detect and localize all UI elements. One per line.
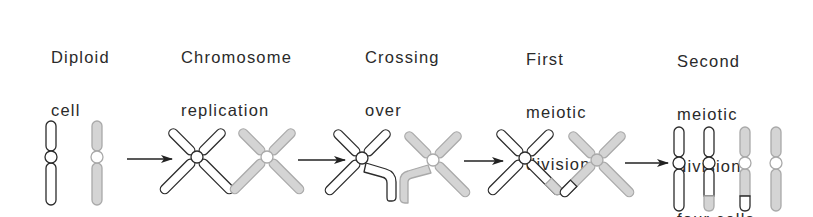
chromosome-gray-first-division bbox=[558, 130, 635, 199]
chromosome-gray-replicated bbox=[228, 127, 305, 196]
chromosome-gray-diploid bbox=[91, 121, 103, 205]
chromosome-white-crossing bbox=[323, 128, 396, 201]
chromosome-gray-final-4 bbox=[770, 127, 782, 211]
chromosome-white-final-1 bbox=[673, 127, 685, 211]
chromosome-gray-crossing bbox=[400, 130, 472, 203]
chromosome-white-replicated bbox=[158, 127, 235, 196]
chromosome-white-diploid bbox=[45, 121, 57, 205]
chromosome-white-recombinant-final-2 bbox=[703, 127, 715, 211]
meiosis-diagram bbox=[0, 0, 813, 217]
chromosome-gray-recombinant-final-3 bbox=[739, 127, 751, 211]
chromosome-white-first-division bbox=[486, 128, 563, 197]
